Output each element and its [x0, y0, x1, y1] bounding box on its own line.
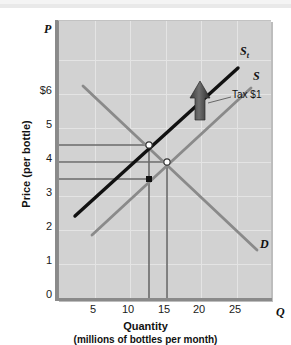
y-tick-2: 2: [26, 221, 52, 232]
chart-figure: Price (per bottle) P 0 1 2 3 4 5 $6: [0, 8, 291, 345]
y-tick-labels: 0 1 2 3 4 5 $6: [22, 8, 52, 308]
x-tick-25: 25: [220, 304, 250, 315]
curves-svg: [59, 21, 273, 301]
y-tick-0: 0: [26, 289, 52, 300]
x-tick-10: 10: [113, 304, 143, 315]
x-axis-title: Quantity (millions of bottles per month): [0, 320, 291, 345]
x-tick-5: 5: [78, 304, 108, 315]
y-tick-6: $6: [26, 85, 52, 96]
x-axis-title-sub: (millions of bottles per month): [0, 333, 291, 345]
curve-label-demand: D: [260, 237, 269, 252]
tax-annotation-label: Tax $1: [232, 89, 261, 100]
y-tick-5: 5: [26, 119, 52, 130]
y-tick-1: 1: [26, 255, 52, 266]
y-tick-3: 3: [26, 187, 52, 198]
point-equilibrium-before-tax: [164, 159, 170, 165]
x-tick-20: 20: [184, 304, 214, 315]
curve-demand: [83, 86, 257, 250]
x-tick-labels: 5 10 15 20 25: [0, 304, 291, 320]
y-tick-4: 4: [26, 153, 52, 164]
curve-label-supply: S: [253, 69, 260, 84]
y-axis-line: [55, 20, 58, 301]
point-price-received-by-sellers: [146, 176, 152, 182]
plot-area: St S D Tax $1: [57, 20, 271, 300]
x-axis-title-main: Quantity: [123, 320, 168, 332]
top-band-highlight: [0, 0, 291, 4]
tax-leader-line: [208, 97, 231, 103]
point-equilibrium-after-tax: [146, 142, 152, 148]
x-tick-15: 15: [149, 304, 179, 315]
tax-shift-arrow: [190, 81, 210, 120]
curve-label-supply-after-tax: St: [240, 44, 249, 60]
top-band: [0, 0, 291, 8]
figure-root: Price (per bottle) P 0 1 2 3 4 5 $6: [0, 0, 291, 345]
curve-supply-after-tax: [75, 68, 238, 216]
x-axis-line: [55, 298, 272, 301]
